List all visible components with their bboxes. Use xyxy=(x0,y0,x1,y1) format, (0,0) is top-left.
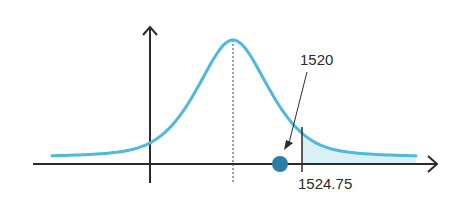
distribution-curve xyxy=(52,40,416,156)
annotation-arrowhead xyxy=(284,140,293,150)
critical-value-label: 1524.75 xyxy=(298,175,352,192)
chart-container: 1520 1524.75 xyxy=(0,0,463,208)
annotation-arrow xyxy=(289,72,307,143)
sample-point xyxy=(272,156,288,172)
shaded-tail-region xyxy=(302,133,416,163)
chart-svg: 1520 1524.75 xyxy=(0,0,463,208)
sample-value-label: 1520 xyxy=(300,51,333,68)
